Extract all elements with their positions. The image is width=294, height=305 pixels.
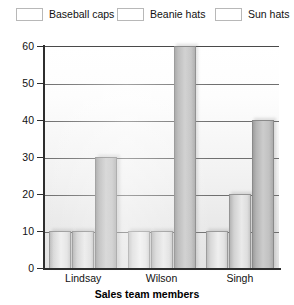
x-axis-label-wilson: Wilson — [122, 272, 200, 284]
bar-singh-beanie-hats — [229, 194, 251, 268]
bar-singh-sun-hats — [252, 120, 274, 268]
bar-wilson-baseball-caps — [128, 231, 150, 268]
y-axis-tick-label: 10 — [10, 226, 34, 236]
legend-label-beanie-hats: Beanie hats — [150, 8, 205, 20]
legend-item-baseball-caps: Baseball caps — [16, 6, 114, 22]
gridline — [44, 84, 279, 85]
bar-lindsay-sun-hats — [95, 157, 117, 268]
y-axis-tick — [37, 157, 44, 158]
bar-wilson-sun-hats — [174, 46, 196, 268]
legend-item-sun-hats: Sun hats — [215, 6, 289, 22]
y-axis-tick — [37, 231, 44, 232]
y-axis-tick — [37, 194, 44, 195]
bar-wilson-beanie-hats — [151, 231, 173, 268]
x-axis-title: Sales team members — [0, 288, 294, 300]
gridline — [44, 121, 279, 122]
y-axis-tick-label: 50 — [10, 78, 34, 88]
y-axis-tick-label: 20 — [10, 189, 34, 199]
y-axis-tick — [37, 120, 44, 121]
legend-swatch-baseball-caps — [16, 8, 43, 21]
x-axis-label-lindsay: Lindsay — [44, 272, 122, 284]
bar-singh-baseball-caps — [206, 231, 228, 268]
y-axis-tick — [37, 46, 44, 47]
legend-swatch-sun-hats — [215, 8, 242, 21]
y-axis-tick-label: 60 — [10, 41, 34, 51]
chart-legend: Baseball caps Beanie hats Sun hats — [0, 0, 294, 32]
legend-label-sun-hats: Sun hats — [248, 8, 289, 20]
gridline — [44, 158, 279, 159]
plot-area — [44, 46, 279, 268]
legend-label-baseball-caps: Baseball caps — [49, 8, 114, 20]
bar-lindsay-beanie-hats — [72, 231, 94, 268]
x-axis-label-singh: Singh — [201, 272, 279, 284]
x-axis-line — [43, 268, 281, 270]
legend-swatch-beanie-hats — [117, 8, 144, 21]
y-axis-tick — [37, 268, 44, 269]
y-axis-tick-label: 40 — [10, 115, 34, 125]
y-axis-tick-label: 30 — [10, 152, 34, 162]
bar-lindsay-baseball-caps — [49, 231, 71, 268]
y-axis-tick-label: 0 — [10, 263, 34, 273]
bar-chart: Baseball caps Beanie hats Sun hats 01020… — [0, 0, 294, 305]
y-axis-tick — [37, 83, 44, 84]
legend-item-beanie-hats: Beanie hats — [117, 6, 205, 22]
